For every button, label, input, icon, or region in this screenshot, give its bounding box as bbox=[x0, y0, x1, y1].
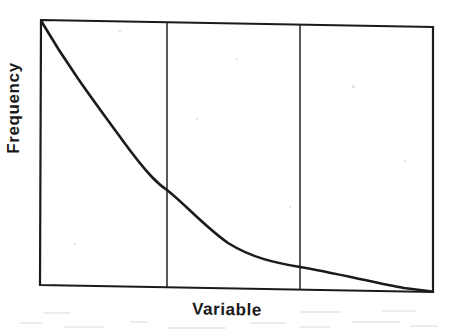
x-axis-label: Variable bbox=[165, 299, 289, 321]
frequency-decay-curve bbox=[42, 22, 433, 292]
plot-frame-border bbox=[40, 20, 433, 292]
y-axis-label: Frequency bbox=[2, 54, 26, 162]
plot-area bbox=[0, 0, 451, 333]
chart-figure: Frequency Variable bbox=[0, 0, 451, 333]
